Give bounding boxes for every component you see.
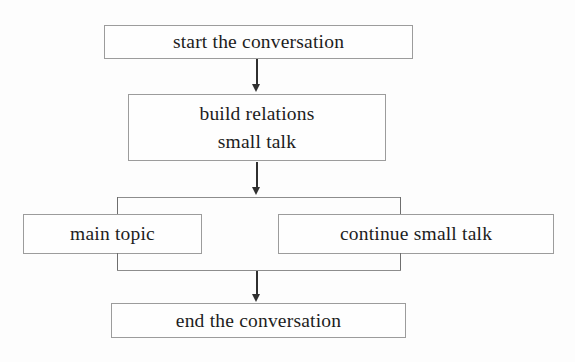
split-bracket-bar (117, 197, 401, 198)
arrow-start-to-build-shaft (256, 59, 258, 86)
arrow-build-to-split-shaft (256, 162, 258, 189)
split-bracket-leg-left (117, 197, 118, 215)
flow-node-build-label-line1: build relations (199, 100, 314, 128)
flow-node-continue-small-talk[interactable]: continue small talk (278, 214, 554, 254)
flow-node-end-label: end the conversation (176, 307, 341, 335)
flow-node-end-the-conversation[interactable]: end the conversation (111, 303, 406, 338)
merge-bracket-leg-right (400, 253, 401, 271)
arrow-start-to-build-head (252, 84, 260, 92)
flow-node-continue-small-talk-label: continue small talk (340, 220, 492, 248)
flow-node-main-topic[interactable]: main topic (23, 214, 202, 254)
flow-node-start-the-conversation[interactable]: start the conversation (104, 25, 413, 59)
arrow-merge-to-end-head (252, 294, 260, 302)
flow-node-main-topic-label: main topic (70, 220, 155, 248)
merge-bracket-leg-left (117, 253, 118, 271)
conversation-flowchart: start the conversation build relations s… (0, 0, 575, 362)
flow-node-build-label-line2: small talk (218, 128, 296, 156)
split-bracket-leg-right (400, 197, 401, 215)
flow-node-build-relations[interactable]: build relations small talk (128, 94, 386, 161)
merge-bracket-bar (117, 270, 401, 271)
arrow-build-to-split-head (252, 187, 260, 195)
flow-node-start-label: start the conversation (173, 28, 344, 56)
arrow-merge-to-end-shaft (256, 271, 258, 296)
